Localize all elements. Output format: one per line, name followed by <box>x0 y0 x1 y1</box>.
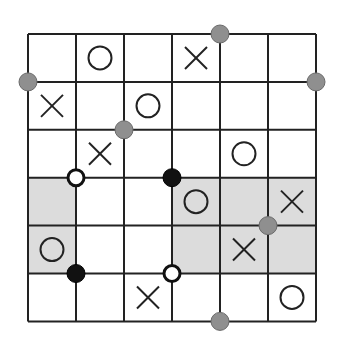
white-dot-icon <box>164 266 180 282</box>
gray-dot-icon <box>211 25 229 43</box>
grid-cell[interactable] <box>28 226 76 274</box>
grid-cell[interactable] <box>220 178 268 226</box>
grid-cell[interactable] <box>28 34 76 82</box>
grid-cell[interactable] <box>172 82 220 130</box>
grid-cell[interactable] <box>76 82 124 130</box>
grid-cell[interactable] <box>124 34 172 82</box>
puzzle-grid <box>0 0 337 342</box>
grid-cell[interactable] <box>172 226 220 274</box>
grid-cell[interactable] <box>28 274 76 322</box>
grid-cell[interactable] <box>268 34 316 82</box>
grid-cell[interactable] <box>268 274 316 322</box>
grid-cell[interactable] <box>28 130 76 178</box>
grid-cell[interactable] <box>124 178 172 226</box>
grid-cell[interactable] <box>220 34 268 82</box>
grid-cell[interactable] <box>172 130 220 178</box>
grid-cell[interactable] <box>124 226 172 274</box>
grid-cell[interactable] <box>124 82 172 130</box>
grid-cell[interactable] <box>268 226 316 274</box>
grid-cell[interactable] <box>76 178 124 226</box>
grid-cell[interactable] <box>268 82 316 130</box>
gray-dot-icon <box>211 312 229 330</box>
gray-dot-icon <box>19 73 37 91</box>
grid-cell[interactable] <box>76 226 124 274</box>
gray-dot-icon <box>307 73 325 91</box>
grid-cell[interactable] <box>268 130 316 178</box>
black-dot-icon <box>67 265 85 283</box>
grid-cell[interactable] <box>124 130 172 178</box>
gray-dot-icon <box>115 121 133 139</box>
grid-cell[interactable] <box>76 34 124 82</box>
grid-cell[interactable] <box>220 82 268 130</box>
grid-cell[interactable] <box>76 274 124 322</box>
puzzle-board <box>0 0 337 342</box>
white-dot-icon <box>68 170 84 186</box>
grid-cell[interactable] <box>172 178 220 226</box>
grid-cell[interactable] <box>28 178 76 226</box>
gray-dot-icon <box>259 217 277 235</box>
grid-cell[interactable] <box>220 130 268 178</box>
grid-cell[interactable] <box>220 274 268 322</box>
black-dot-icon <box>163 169 181 187</box>
grid-cell[interactable] <box>172 274 220 322</box>
